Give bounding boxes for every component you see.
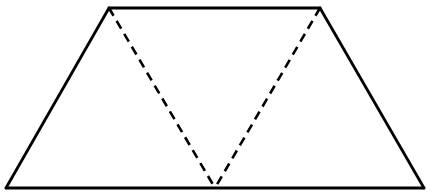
trapezoid-figure xyxy=(0,0,435,195)
edge-top-right-to-bottom-right xyxy=(320,8,424,188)
trapezoid-outline xyxy=(6,8,424,188)
dashed-diagonals xyxy=(109,8,320,188)
dashed-edge-top-right-to-bottom-mid xyxy=(215,8,320,188)
dashed-edge-top-left-to-bottom-mid xyxy=(109,8,215,188)
diagram-canvas xyxy=(0,0,435,195)
edge-bottom-left-to-top-left xyxy=(6,8,109,188)
